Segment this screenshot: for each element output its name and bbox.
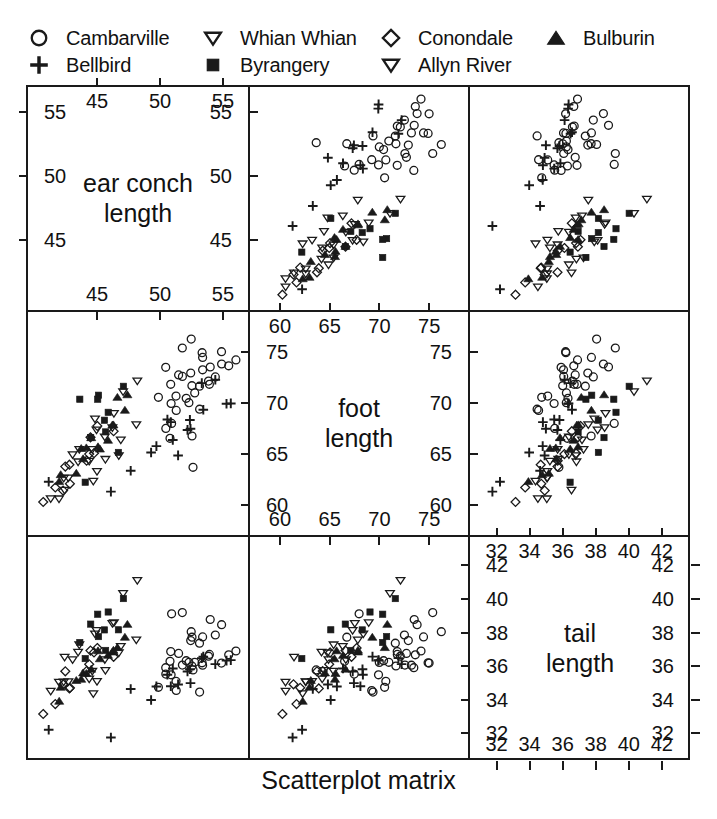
axis-tick-mark bbox=[469, 453, 478, 455]
axis-tick-label: 42 bbox=[652, 555, 674, 575]
axis-tick-label: 55 bbox=[44, 102, 66, 122]
axis-tick-mark bbox=[222, 311, 224, 320]
axis-tick-label: 45 bbox=[210, 230, 232, 250]
axis-tick-label: 65 bbox=[430, 444, 452, 464]
axis-tick-mark bbox=[19, 239, 28, 241]
axis-tick-mark bbox=[19, 111, 28, 113]
axis-tick-mark bbox=[469, 504, 478, 506]
axis-tick-mark bbox=[279, 536, 281, 545]
axis-tick-label: 65 bbox=[319, 316, 341, 336]
legend-item-byrangery: Byrangery bbox=[202, 52, 329, 78]
axis-tick-label: 34 bbox=[486, 690, 508, 710]
axis-tick-mark bbox=[241, 402, 250, 404]
legend-item-label: Whian Whian bbox=[240, 28, 357, 48]
axis-tick-mark bbox=[628, 528, 630, 537]
axis-tick-label: 38 bbox=[585, 734, 607, 754]
axis-tick-label: 36 bbox=[552, 541, 574, 561]
axis-tick-mark bbox=[529, 528, 531, 537]
axis-tick-mark bbox=[461, 699, 470, 701]
axis-tick-label: 50 bbox=[149, 91, 171, 111]
scatterplot-matrix: ear conchlengthfootlengthtaillength45454… bbox=[26, 85, 690, 760]
axis-tick-label: 70 bbox=[266, 393, 288, 413]
scatter-panel-taill-vs-footlgth bbox=[250, 537, 468, 760]
axis-tick-mark bbox=[461, 665, 470, 667]
axis-tick-mark bbox=[595, 528, 597, 537]
axis-tick-mark bbox=[241, 351, 250, 353]
axis-tick-mark bbox=[96, 311, 98, 320]
axis-tick-label: 34 bbox=[652, 690, 674, 710]
axis-tick-label: 75 bbox=[430, 342, 452, 362]
axis-tick-label: 38 bbox=[486, 623, 508, 643]
axis-tick-label: 75 bbox=[418, 509, 440, 529]
scatter-panel-earconch-vs-taill bbox=[470, 87, 690, 310]
axis-tick-label: 55 bbox=[212, 284, 234, 304]
triangle-up-filled-icon bbox=[545, 27, 567, 49]
legend-item-allyn-river: Allyn River bbox=[380, 52, 511, 78]
axis-tick-label: 36 bbox=[486, 656, 508, 676]
axis-tick-mark bbox=[329, 303, 331, 312]
axis-tick-mark bbox=[279, 303, 281, 312]
legend-item-label: Bellbird bbox=[66, 55, 131, 75]
axis-tick-label: 42 bbox=[486, 555, 508, 575]
axis-tick-label: 38 bbox=[585, 541, 607, 561]
axis-tick-label: 50 bbox=[149, 284, 171, 304]
legend-item-label: Cambarville bbox=[66, 28, 169, 48]
axis-tick-label: 60 bbox=[269, 316, 291, 336]
legend-item-label: Conondale bbox=[418, 28, 513, 48]
scatter-panel-earconch-vs-footlgth bbox=[250, 87, 468, 310]
axis-tick-mark bbox=[378, 303, 380, 312]
axis-tick-mark bbox=[241, 453, 250, 455]
scatter-panel-footlgth-vs-earconch bbox=[28, 312, 248, 535]
variable-label-line2: length bbox=[28, 197, 248, 227]
axis-tick-mark bbox=[241, 504, 250, 506]
axis-tick-mark bbox=[469, 351, 478, 353]
axis-tick-mark bbox=[96, 78, 98, 87]
axis-tick-label: 75 bbox=[266, 342, 288, 362]
axis-tick-label: 65 bbox=[266, 444, 288, 464]
legend-item-label: Byrangery bbox=[240, 55, 329, 75]
circle-open-icon bbox=[28, 27, 50, 49]
scatter-panel-footlgth-vs-taill bbox=[470, 312, 690, 535]
axis-tick-mark bbox=[461, 732, 470, 734]
plus-icon bbox=[28, 54, 50, 76]
axis-tick-label: 75 bbox=[418, 316, 440, 336]
legend-item-bulburin: Bulburin bbox=[545, 25, 655, 51]
axis-tick-label: 40 bbox=[652, 589, 674, 609]
axis-tick-mark bbox=[378, 536, 380, 545]
legend-item-label: Bulburin bbox=[583, 28, 655, 48]
axis-tick-label: 50 bbox=[210, 166, 232, 186]
triangle-down-open-icon bbox=[202, 27, 224, 49]
axis-tick-mark bbox=[691, 598, 700, 600]
axis-tick-mark bbox=[691, 564, 700, 566]
legend-item-conondale: Conondale bbox=[380, 25, 513, 51]
axis-tick-mark bbox=[222, 78, 224, 87]
legend: CambarvilleWhian WhianConondaleBulburinB… bbox=[0, 0, 717, 85]
square-filled-icon bbox=[202, 54, 224, 76]
axis-tick-label: 40 bbox=[618, 734, 640, 754]
diamond-open-icon bbox=[380, 27, 402, 49]
axis-tick-label: 55 bbox=[210, 102, 232, 122]
axis-tick-mark bbox=[159, 78, 161, 87]
legend-item-bellbird: Bellbird bbox=[28, 52, 131, 78]
axis-tick-label: 70 bbox=[430, 393, 452, 413]
axis-tick-mark bbox=[329, 536, 331, 545]
axis-tick-mark bbox=[691, 699, 700, 701]
legend-item-cambarville: Cambarville bbox=[28, 25, 169, 51]
axis-tick-label: 36 bbox=[652, 656, 674, 676]
axis-tick-label: 45 bbox=[86, 284, 108, 304]
axis-tick-mark bbox=[562, 528, 564, 537]
axis-tick-mark bbox=[461, 632, 470, 634]
axis-tick-mark bbox=[661, 528, 663, 537]
chart-caption: Scatterplot matrix bbox=[0, 766, 717, 795]
axis-tick-mark bbox=[496, 528, 498, 537]
legend-item-label: Allyn River bbox=[418, 55, 511, 75]
axis-tick-mark bbox=[159, 311, 161, 320]
axis-tick-label: 36 bbox=[552, 734, 574, 754]
axis-tick-label: 65 bbox=[319, 509, 341, 529]
axis-tick-mark bbox=[461, 598, 470, 600]
axis-tick-label: 42 bbox=[651, 734, 673, 754]
axis-tick-label: 70 bbox=[368, 316, 390, 336]
legend-item-whian-whian: Whian Whian bbox=[202, 25, 357, 51]
axis-tick-label: 50 bbox=[44, 166, 66, 186]
axis-tick-label: 34 bbox=[518, 734, 540, 754]
